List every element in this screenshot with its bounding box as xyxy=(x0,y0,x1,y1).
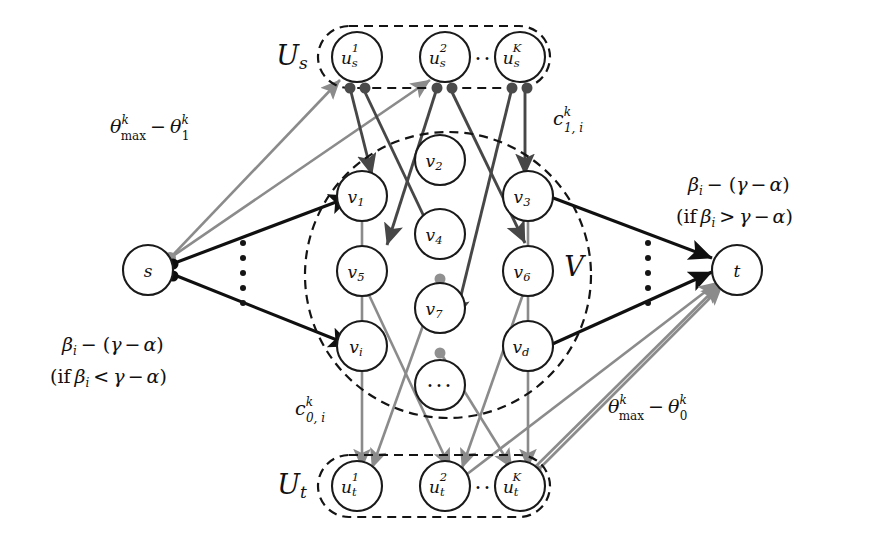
label-us-to-v: ck1, i xyxy=(553,105,583,135)
sink-label: t xyxy=(734,261,741,281)
edge-s-to-v1 xyxy=(172,196,352,264)
label-source-to-v-line2: (ifβi<γ−α) xyxy=(50,365,167,390)
ut-group-label: Ut xyxy=(277,469,307,502)
svg-text:···: ··· xyxy=(427,373,454,398)
dot-us2-out-a xyxy=(432,83,443,94)
dot-us1-out-b xyxy=(360,83,371,94)
label-ut-to-sink: θkmax−θk0 xyxy=(608,393,687,423)
dot-v7-out xyxy=(435,348,446,359)
edge-ut2-to-t xyxy=(462,282,718,478)
node-us1[interactable]: us1 xyxy=(332,32,382,82)
node-source-s[interactable]: s xyxy=(123,245,173,295)
edges-ut-to-sink-group xyxy=(462,282,722,478)
edge-utK2-to-t xyxy=(538,286,722,470)
node-v5[interactable]: v5 xyxy=(337,246,387,296)
node-usK[interactable]: usK xyxy=(495,32,545,82)
node-vi[interactable]: vi xyxy=(337,321,387,371)
node-v7[interactable]: v7 xyxy=(415,283,465,333)
us-group-label: Us xyxy=(276,40,308,73)
edge-s-to-vi xyxy=(172,274,352,346)
node-ut2[interactable]: ut2 xyxy=(420,461,470,511)
source-label: s xyxy=(144,261,153,281)
node-v2[interactable]: v2 xyxy=(415,135,465,185)
us-nodes: us1 us2 ··· usK xyxy=(332,32,545,82)
node-vd[interactable]: vd xyxy=(503,321,553,371)
v-group-label: V xyxy=(564,251,586,282)
node-utK[interactable]: utK xyxy=(495,461,545,511)
v-nodes: v2 v1 v3 v4 v5 v6 xyxy=(337,135,553,410)
figure-canvas: us1 us2 ··· usK Us v2 v1 xyxy=(0,0,877,541)
label-source-to-v-line1: βi− (γ−α) xyxy=(61,333,164,358)
node-us2[interactable]: us2 xyxy=(420,32,470,82)
network-flow-diagram: us1 us2 ··· usK Us v2 v1 xyxy=(0,0,877,541)
right-vertical-ellipsis xyxy=(645,240,651,306)
dot-us2-out-b xyxy=(447,83,458,94)
label-v-to-sink-line1: βi− (γ−α) xyxy=(687,173,790,198)
label-source-to-us: θkmax−θk1 xyxy=(110,113,189,143)
ut-nodes: ut1 ut2 ··· utK xyxy=(332,461,545,511)
left-vertical-ellipsis xyxy=(240,240,246,306)
dot-usK-out-a xyxy=(507,83,518,94)
node-v6[interactable]: v6 xyxy=(503,246,553,296)
dot-us1-out-a xyxy=(345,83,356,94)
node-ut1[interactable]: ut1 xyxy=(332,461,382,511)
node-sink-t[interactable]: t xyxy=(712,245,762,295)
label-v-to-sink-line2: (ifβi>γ−α) xyxy=(676,205,793,230)
edge-vd-to-t xyxy=(548,272,712,346)
label-v-to-ut: ck0, i xyxy=(295,395,325,425)
dot-usK-out-b xyxy=(522,83,533,94)
node-v-ellipsis: ··· xyxy=(415,360,465,410)
node-v3[interactable]: v3 xyxy=(503,171,553,221)
edges-source-to-v-group xyxy=(172,196,352,346)
node-v4[interactable]: v4 xyxy=(415,209,465,259)
node-v1[interactable]: v1 xyxy=(337,171,387,221)
